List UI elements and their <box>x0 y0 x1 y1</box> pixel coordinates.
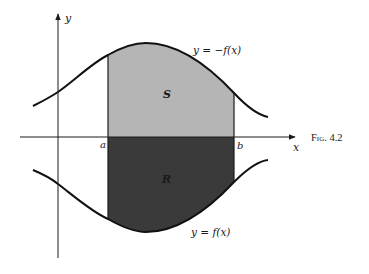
upper-curve-label: y = −f(x) <box>192 44 241 56</box>
region-s-label: S <box>163 88 171 101</box>
figure-canvas: y x a b S R y = −f(x) y = f(x) Fig. 4.2 <box>0 0 369 274</box>
y-axis-label: y <box>64 12 72 25</box>
region-r-label: R <box>161 173 171 186</box>
lower-curve-label: y = f(x) <box>190 226 230 238</box>
tick-label-b: b <box>237 140 243 151</box>
region-s <box>108 43 234 137</box>
tick-label-a: a <box>100 139 106 150</box>
x-axis-label: x <box>293 141 300 154</box>
figure-caption: Fig. 4.2 <box>311 132 343 143</box>
